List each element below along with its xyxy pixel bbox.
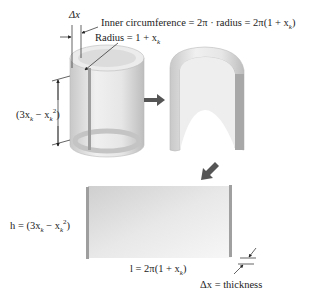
down-left-arrow-icon	[201, 162, 219, 180]
right-arrow-icon	[144, 94, 165, 106]
opened-shell	[170, 47, 244, 151]
slab-length-label: l = 2π(1 + xk)	[130, 264, 186, 277]
shell-cut-line	[88, 68, 91, 150]
shell-height-label: (3xk − xk2)	[16, 108, 60, 123]
slab-height-label: h = (3xk − xk2)	[10, 219, 70, 234]
delta-x-label: Δx	[69, 10, 80, 21]
radius-label: Radius = 1 + xk	[95, 33, 160, 46]
diagram-canvas	[0, 0, 323, 302]
thickness-label: Δx = thickness	[200, 280, 262, 291]
cylindrical-shell	[70, 45, 144, 157]
inner-circumference-label: Inner circumference = 2π · radius = 2π(1…	[101, 18, 295, 31]
flat-slab	[86, 185, 232, 259]
